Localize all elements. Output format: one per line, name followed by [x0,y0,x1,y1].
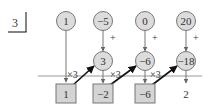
plus-label: + [110,32,116,43]
plus-label: + [193,32,199,43]
svg-text:0: 0 [142,15,148,27]
coefficient-node: −5 [94,12,113,31]
bottom-row: 1 −2 −6 2 [56,84,189,103]
divisor-value: 3 [12,16,18,30]
multiply-label: ×3 [67,69,78,80]
svg-text:1: 1 [63,88,69,100]
svg-text:20: 20 [181,15,193,27]
multiply-label: ×3 [150,69,161,80]
svg-text:−6: −6 [139,88,151,100]
top-row: 1 −5 0 20 [57,12,196,31]
result-node: −6 [135,84,155,103]
svg-text:−18: −18 [177,55,195,67]
multiply-label: ×3 [110,69,121,80]
svg-text:3: 3 [100,55,106,67]
svg-text:−6: −6 [139,55,151,67]
product-node: −6 [136,52,155,71]
plus-label: + [152,32,158,43]
result-node: −2 [93,84,113,103]
svg-text:−2: −2 [97,88,109,100]
coefficient-node: 0 [136,12,155,31]
svg-text:1: 1 [63,15,69,27]
remainder-value: 2 [183,88,189,100]
synthetic-division-diagram: 3 + + + ×3 ×3 ×3 1 [0,0,208,112]
result-node: 1 [56,84,76,103]
product-node: −18 [177,52,196,71]
product-node: 3 [94,52,113,71]
coefficient-node: 1 [57,12,76,31]
svg-text:−5: −5 [97,15,109,27]
middle-row: 3 −6 −18 [94,52,196,71]
divisor-bracket: 3 [8,12,27,32]
coefficient-node: 20 [177,12,196,31]
